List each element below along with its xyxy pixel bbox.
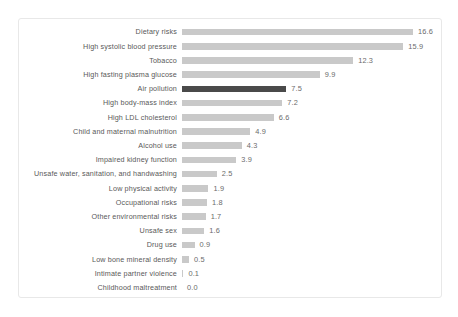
bar-value-label: 2.5 (222, 170, 233, 177)
bar-category-label: Unsafe water, sanitation, and handwashin… (19, 170, 177, 177)
bar-row: Unsafe water, sanitation, and handwashin… (19, 167, 441, 181)
bar-category-label: Unsafe sex (19, 227, 177, 234)
bar (182, 157, 236, 164)
bar-chart-plot-area: Dietary risks16.6High systolic blood pre… (19, 19, 441, 297)
bar-category-label: Child and maternal malnutrition (19, 128, 177, 135)
bar-value-label: 1.7 (211, 213, 222, 220)
chart-frame: Dietary risks16.6High systolic blood pre… (18, 18, 442, 298)
bar-category-label: Intimate partner violence (19, 270, 177, 277)
bar-row: Other environmental risks1.7 (19, 210, 441, 224)
bar-row: Dietary risks16.6 (19, 25, 441, 39)
bar-highlighted (182, 86, 286, 93)
bar-track: 4.9 (182, 124, 441, 138)
bar-row: Unsafe sex1.6 (19, 224, 441, 238)
bar-value-label: 1.6 (209, 227, 220, 234)
bar-row: Alcohol use4.3 (19, 139, 441, 153)
bar-value-label: 0.1 (188, 270, 199, 277)
bar (182, 142, 242, 149)
bar-value-label: 1.9 (213, 185, 224, 192)
bar-track: 0.1 (182, 266, 441, 280)
bar-track: 6.6 (182, 110, 441, 124)
bar (182, 43, 403, 50)
bar-category-label: Air pollution (19, 85, 177, 92)
bar-category-label: Dietary risks (19, 28, 177, 35)
bar-value-label: 15.9 (408, 43, 423, 50)
bar-category-label: Low physical activity (19, 185, 177, 192)
bar-value-label: 0.0 (187, 284, 198, 291)
bar-value-label: 7.5 (291, 85, 302, 92)
bar-category-label: Tobacco (19, 57, 177, 64)
bar-row: Tobacco12.3 (19, 53, 441, 67)
bar-category-label: Childhood maltreatment (19, 284, 177, 291)
bar-category-label: Other environmental risks (19, 213, 177, 220)
bar (182, 171, 217, 178)
bar-row: Low bone mineral density0.5 (19, 252, 441, 266)
bar-row: High LDL cholesterol6.6 (19, 110, 441, 124)
bar-value-label: 4.3 (247, 142, 258, 149)
bar-row: Air pollution7.5 (19, 82, 441, 96)
bar-row: High fasting plasma glucose9.9 (19, 68, 441, 82)
bar-track: 1.8 (182, 195, 441, 209)
bar (182, 57, 353, 64)
bar-track: 7.2 (182, 96, 441, 110)
bar (182, 114, 274, 121)
bar (182, 213, 206, 220)
bar-value-label: 16.6 (418, 28, 433, 35)
bar-track: 1.6 (182, 224, 441, 238)
bar-category-label: Impaired kidney function (19, 156, 177, 163)
bar-track: 1.9 (182, 181, 441, 195)
bar (182, 128, 250, 135)
bar-category-label: High systolic blood pressure (19, 43, 177, 50)
bar-row: Drug use0.9 (19, 238, 441, 252)
bar-row: Childhood maltreatment0.0 (19, 281, 441, 295)
bar (182, 29, 413, 36)
bar (182, 185, 208, 192)
bar-track: 15.9 (182, 39, 441, 53)
bar-track: 0.9 (182, 238, 441, 252)
bar-track: 0.0 (182, 281, 441, 295)
bar-track: 7.5 (182, 82, 441, 96)
bar-row: Impaired kidney function3.9 (19, 153, 441, 167)
bar-row: Low physical activity1.9 (19, 181, 441, 195)
bar (182, 71, 320, 78)
bar (182, 228, 204, 235)
bar-category-label: High fasting plasma glucose (19, 71, 177, 78)
bar-value-label: 9.9 (325, 71, 336, 78)
bar (182, 100, 282, 107)
bar-value-label: 4.9 (255, 128, 266, 135)
bar-value-label: 0.5 (194, 256, 205, 263)
bar-row: Intimate partner violence0.1 (19, 266, 441, 280)
bar-track: 16.6 (182, 25, 441, 39)
bar-row: Child and maternal malnutrition4.9 (19, 124, 441, 138)
bar-row: High body-mass index7.2 (19, 96, 441, 110)
bar (182, 270, 183, 277)
bar-category-label: High body-mass index (19, 99, 177, 106)
bar-value-label: 6.6 (279, 114, 290, 121)
bar-category-label: Alcohol use (19, 142, 177, 149)
bar (182, 199, 207, 206)
bar-track: 1.7 (182, 210, 441, 224)
bar-value-label: 12.3 (358, 57, 373, 64)
bar-category-label: Low bone mineral density (19, 256, 177, 263)
bar (182, 242, 195, 249)
bar-track: 4.3 (182, 139, 441, 153)
bar-track: 9.9 (182, 68, 441, 82)
bar-track: 3.9 (182, 153, 441, 167)
bar-track: 2.5 (182, 167, 441, 181)
bar-value-label: 7.2 (287, 99, 298, 106)
bar-category-label: High LDL cholesterol (19, 114, 177, 121)
bar (182, 256, 189, 263)
bar-value-label: 1.8 (212, 199, 223, 206)
bar-category-label: Occupational risks (19, 199, 177, 206)
bar-category-label: Drug use (19, 241, 177, 248)
bar-track: 12.3 (182, 53, 441, 67)
bar-track: 0.5 (182, 252, 441, 266)
bar-value-label: 0.9 (200, 241, 211, 248)
bar-value-label: 3.9 (241, 156, 252, 163)
bar-row: Occupational risks1.8 (19, 195, 441, 209)
bar-row: High systolic blood pressure15.9 (19, 39, 441, 53)
